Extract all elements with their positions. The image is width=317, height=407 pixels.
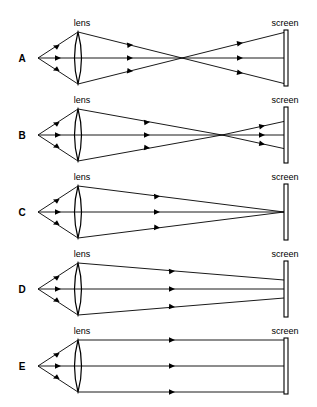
screen-A (284, 30, 288, 86)
arrow-refracted-axis-B (144, 132, 150, 138)
arrow-incident-axis-B (55, 132, 61, 138)
arrow-refracted-axis-C (154, 209, 160, 215)
row-label-E: E (19, 361, 26, 372)
lens-label-A: lens (74, 18, 91, 28)
arrow-incident-axis-D (55, 286, 61, 292)
row-label-B: B (18, 130, 25, 141)
arrow-diverging-axis-B (259, 132, 265, 138)
diagram-row-C: C lens screen (18, 172, 298, 240)
arrow-refracted-lower-B (144, 145, 150, 151)
screen-label-C: screen (271, 172, 298, 182)
ray-diagram-figure: A lens screen (0, 0, 317, 407)
screen-label-E: screen (271, 326, 298, 336)
lens-label-E: lens (74, 326, 91, 336)
incident-rays-D (38, 263, 78, 315)
screen-E (284, 338, 288, 394)
lens-label-B: lens (74, 95, 91, 105)
lens-label-C: lens (74, 172, 91, 182)
diagram-row-D: D lens screen (18, 249, 298, 317)
row-label-C: C (18, 207, 25, 218)
refracted-rays-D (78, 263, 284, 315)
row-label-D: D (18, 284, 25, 295)
arrow-refracted-axis-D (169, 286, 175, 292)
refracted-rays-C (78, 186, 284, 238)
screen-D (284, 261, 288, 317)
screen-C (284, 184, 288, 240)
arrow-refracted-upper-D (169, 269, 175, 275)
incident-rays-C (38, 186, 78, 238)
screen-B (284, 107, 288, 163)
diagram-row-E: E lens screen (19, 326, 299, 395)
lens-label-D: lens (74, 249, 91, 259)
arrow-refracted-lower-A (127, 68, 133, 74)
refracted-rays-B (78, 109, 286, 161)
lens-ray-diagram-svg: A lens screen (0, 0, 317, 407)
arrow-diverging-lower-B (259, 141, 265, 146)
arrow-refracted-lower-C (154, 225, 160, 231)
arrow-refracted-upper-A (127, 42, 133, 48)
arrow-refracted-upper-C (154, 194, 160, 200)
arrow-diverging-lower-A (237, 70, 243, 76)
arrow-diverging-upper-A (237, 41, 243, 47)
screen-label-D: screen (271, 249, 298, 259)
arrow-refracted-upper-B (144, 120, 150, 126)
incident-rays-B (38, 109, 78, 161)
incident-rays-E (38, 340, 78, 392)
arrow-refracted-lower-E (169, 389, 175, 395)
diagram-row-A: A lens screen (18, 18, 298, 86)
arrow-diverging-axis-A (237, 55, 243, 61)
diagram-row-B: B lens screen (18, 95, 298, 163)
arrow-refracted-upper-E (169, 337, 175, 343)
arrow-diverging-upper-B (259, 124, 265, 129)
refracted-rays-E (78, 337, 284, 395)
incident-rays-A (38, 32, 78, 84)
arrow-refracted-lower-D (169, 304, 175, 310)
arrow-incident-axis-A (55, 55, 61, 61)
arrow-incident-axis-E (55, 363, 61, 369)
arrow-incident-axis-C (55, 209, 61, 215)
screen-label-A: screen (271, 18, 298, 28)
arrow-refracted-axis-E (169, 363, 175, 369)
arrow-refracted-axis-A (127, 55, 133, 61)
row-label-A: A (18, 53, 25, 64)
refracted-rays-A (78, 32, 286, 84)
screen-label-B: screen (271, 95, 298, 105)
